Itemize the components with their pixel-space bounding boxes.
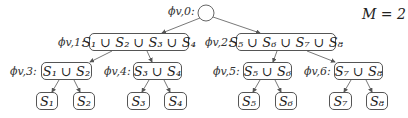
node-label-v1: ϕv,1: [58, 36, 85, 49]
parameter-label: M = 2 [362, 6, 406, 22]
node-v3: S₁ ∪ S₂ [41, 62, 92, 80]
edge-v3-s2 [74, 80, 80, 92]
leaf-s7: S₇ [329, 92, 352, 110]
node-v5: S₅ ∪ S₆ [243, 62, 292, 80]
edge-v1-v3 [90, 51, 112, 62]
node-label-v5: ϕv,5: [213, 65, 240, 78]
root-label: ϕv,0: [168, 5, 195, 18]
edge-v2-v5 [273, 51, 277, 62]
leaf-s8: S₈ [366, 92, 388, 110]
leaf-s4: S₄ [164, 92, 187, 110]
leaf-s1: S₁ [36, 92, 58, 110]
edge-v2-v6 [307, 51, 335, 62]
edge-v6-s8 [366, 80, 372, 92]
edge-v3-s1 [52, 80, 59, 92]
node-v1: S₁ ∪ S₂ ∪ S₃ ∪ S₄ [89, 33, 189, 51]
node-label-v6: ϕv,6: [304, 65, 331, 78]
node-v4: S₃ ∪ S₄ [133, 62, 182, 80]
node-label-v2: ϕv,2: [205, 36, 232, 49]
leaf-s3: S₃ [127, 92, 150, 110]
edge-v0-v2 [213, 17, 260, 33]
edge-v6-s7 [344, 80, 351, 92]
leaf-s6: S₆ [275, 92, 297, 110]
edge-v0-v1 [162, 18, 200, 33]
edge-v5-s6 [275, 80, 281, 92]
node-label-v4: ϕv,4: [104, 65, 131, 78]
edge-v4-s3 [142, 80, 149, 92]
leaf-s5: S₅ [238, 92, 260, 110]
edge-v5-s5 [253, 80, 260, 92]
node-label-v3: ϕv,3: [10, 65, 37, 78]
root-node-circle [198, 5, 214, 21]
leaf-s2: S₂ [73, 92, 95, 110]
node-v6: S₇ ∪ S₈ [334, 62, 383, 80]
edge-v4-s4 [164, 80, 170, 92]
edge-v1-v4 [147, 51, 152, 62]
node-v2: S₅ ∪ S₆ ∪ S₇ ∪ S₈ [236, 33, 336, 51]
